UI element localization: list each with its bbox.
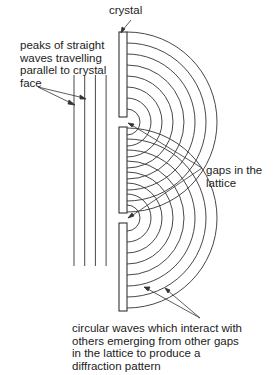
- label-line: gaps in the: [206, 164, 262, 177]
- circular-waves-label: circular waves which interact with other…: [72, 322, 242, 372]
- circular-wave-arc: [127, 54, 195, 190]
- label-line: face: [20, 77, 106, 90]
- label-line: in the lattice to produce a: [72, 347, 242, 360]
- label-line: circular waves which interact with: [72, 322, 242, 335]
- label-line: lattice: [206, 177, 262, 190]
- circular-wave-arrow-2: [167, 290, 200, 318]
- circular-wave-arrow-1-head: [144, 287, 150, 291]
- crystal-label: crystal: [109, 4, 142, 17]
- gap-arrow-1-head: [128, 123, 134, 127]
- circular-wave-arc: [127, 128, 217, 308]
- label-line: peaks of straight: [20, 39, 106, 52]
- straight-wave-arrow-2: [38, 87, 73, 104]
- gap-arrow-2: [130, 168, 202, 217]
- circular-wave-arrow-1: [146, 288, 200, 318]
- crystal-block: [119, 32, 127, 117]
- label-line: parallel to crystal: [20, 64, 106, 77]
- label-line: waves travelling: [20, 52, 106, 65]
- circular-waves: [127, 32, 217, 308]
- label-line: diffraction pattern: [72, 360, 242, 373]
- circular-wave-arc: [127, 150, 195, 286]
- crystal-block: [119, 127, 127, 213]
- circular-wave-arc: [127, 183, 162, 253]
- crystal-lattice: [119, 32, 127, 311]
- straight-waves-label: peaks of straight waves travelling paral…: [20, 39, 106, 89]
- gap-arrow-2-head: [128, 213, 134, 218]
- circular-wave-arc: [127, 109, 140, 135]
- circular-wave-arc: [127, 32, 217, 212]
- circular-wave-arc: [127, 87, 162, 157]
- gaps-label: gaps in the lattice: [206, 164, 262, 189]
- crystal-block: [119, 223, 127, 311]
- label-line: others emerging from other gaps: [72, 335, 242, 348]
- straight-wave-peaks: [74, 75, 106, 266]
